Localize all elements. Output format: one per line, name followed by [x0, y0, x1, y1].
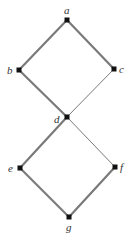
node-label-a: a [64, 4, 70, 16]
node-label-c: c [119, 63, 124, 75]
hasse-diagram: abcdefg [0, 0, 131, 242]
node-label-e: e [8, 162, 13, 174]
nodes [17, 18, 118, 220]
node-g [67, 215, 72, 220]
edge-d-e [20, 117, 67, 168]
node-a [65, 18, 70, 23]
edge-f-g [69, 167, 115, 217]
node-d [65, 115, 70, 120]
edge-e-g [20, 168, 69, 217]
node-b [17, 68, 22, 73]
node-label-f: f [120, 161, 125, 173]
edge-b-d [19, 70, 67, 117]
edge-a-b [19, 20, 67, 70]
edge-a-c [67, 20, 114, 69]
edge-d-f [67, 117, 115, 167]
edge-c-d [67, 69, 114, 117]
node-label-d: d [54, 113, 60, 125]
node-e [18, 166, 23, 171]
node-f [113, 165, 118, 170]
node-c [112, 67, 117, 72]
node-label-g: g [66, 221, 72, 233]
node-label-b: b [7, 64, 13, 76]
